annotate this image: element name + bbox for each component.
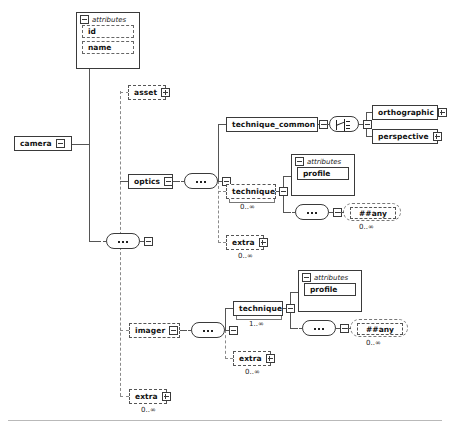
compositor-choice-technique-common[interactable] [329,116,359,132]
compositor-sequence-imager[interactable] [191,322,225,338]
stub-choice [363,120,372,129]
minus-icon[interactable] [302,273,311,282]
attribute-id[interactable]: id [82,25,134,38]
expand-box-icon[interactable] [433,132,442,141]
element-technique-optics[interactable]: technique [226,184,276,199]
connector-branch-imager [120,330,129,331]
attribute-profile-label: profile [303,169,330,178]
connector-imager-trunk-down [225,330,226,359]
attribute-profile[interactable]: profile [304,283,356,296]
wildcard-any-optics-box: ##any [350,207,396,219]
cardinality-extra-optics: 0..∞ [238,252,253,260]
collapse-box-icon[interactable] [279,187,288,196]
element-orthographic[interactable]: orthographic [372,105,438,120]
connector-camera-out [72,144,90,145]
sequence-dots-icon [115,241,133,243]
connector-to-technique-common [218,124,226,125]
expand-box-icon[interactable] [259,238,268,247]
attributes-panel-header: attributes [77,13,139,25]
connector-technique-optics-attrs [283,176,291,177]
sequence-dots-icon [193,181,211,183]
element-perspective[interactable]: perspective [372,129,438,144]
expand-box-icon[interactable] [161,88,170,97]
attributes-label: attributes [307,158,341,166]
compositor-sequence-any-optics[interactable] [295,204,329,220]
wildcard-any-optics[interactable]: ##any [343,203,401,221]
choice-branch-1-icon [346,121,350,122]
sequence-dots-icon [200,330,218,332]
stub-sequence-camera [144,237,153,246]
attributes-label: attributes [314,274,348,282]
element-camera[interactable]: camera [14,136,72,151]
element-orthographic-label: orthographic [377,109,437,117]
attribute-name[interactable]: name [82,41,134,54]
compositor-sequence-any-imager[interactable] [302,320,336,336]
element-imager[interactable]: imager [129,323,180,338]
element-optics-label: optics [133,178,163,186]
connector-technique-optics-sequence [283,212,291,213]
connector-imager-out [180,330,187,331]
connector-to-extra-imager [225,358,233,359]
cardinality-any-imager: 0..∞ [366,339,381,347]
attributes-panel-header: attributes [299,271,361,283]
attributes-panel-technique-imager: attributes profile [298,270,362,312]
attributes-rows: profile [299,283,361,300]
cardinality-any-optics: 0..∞ [359,223,374,231]
choice-branch-2-icon [346,125,350,126]
collapse-box-icon[interactable] [56,139,65,148]
element-extra-camera[interactable]: extra [129,389,167,404]
connector-optics-trunk-up [218,124,219,181]
element-optics[interactable]: optics [128,174,173,189]
cardinality-extra-camera: 0..∞ [141,406,156,414]
element-technique-optics-label: technique [231,188,278,196]
compositor-sequence-camera[interactable] [106,233,140,249]
compositor-sequence-optics[interactable] [184,173,218,189]
element-perspective-label: perspective [377,133,432,141]
attributes-rows: id name [77,25,139,58]
expand-box-icon[interactable] [438,108,447,117]
element-extra-optics[interactable]: extra [226,235,264,250]
element-technique-imager[interactable]: technique [233,301,283,316]
attributes-panel-header: attributes [292,155,354,167]
connector-camera-spine-down [89,144,90,242]
cardinality-technique-optics: 0..∞ [240,203,255,211]
connector-technique-imager-attrs [290,292,298,293]
element-asset-label: asset [133,89,160,97]
element-extra-camera-label: extra [134,393,161,401]
minus-icon[interactable] [80,15,89,24]
attributes-panel-camera: attributes id name [76,12,140,69]
sequence-dots-icon [311,328,329,330]
minus-icon[interactable] [295,157,304,166]
connector-to-technique-optics [218,191,226,192]
element-camera-label: camera [19,140,55,148]
sequence-dots-icon [304,212,322,214]
wildcard-any-imager-label: ##any [366,325,394,334]
element-asset[interactable]: asset [128,85,166,100]
element-extra-imager[interactable]: extra [233,351,271,366]
choice-branch-3-icon [346,128,350,129]
expand-box-icon[interactable] [162,392,171,401]
choice-bar-icon [344,119,345,131]
attribute-profile[interactable]: profile [297,167,349,180]
expand-box-icon[interactable] [266,354,275,363]
element-technique-common-label: technique_common [231,121,318,129]
connector-imager-trunk-up [225,308,226,330]
connector-branch-optics [120,181,128,182]
collapse-box-icon[interactable] [286,304,295,313]
connector-optics-out [173,181,180,182]
attribute-id-label: id [88,27,96,36]
element-technique-common[interactable]: technique_common [226,117,318,132]
attributes-rows: profile [292,167,354,184]
wildcard-any-imager[interactable]: ##any [350,319,408,337]
element-imager-label: imager [134,327,168,335]
wildcard-any-imager-box: ##any [357,323,403,335]
connector-to-extra-optics [218,242,226,243]
element-extra-optics-label: extra [231,239,258,247]
connector-technique-imager-sequence [290,328,298,329]
schema-diagram-canvas: camera attributes id name asset optics [0,0,450,432]
collapse-box-icon[interactable] [169,326,178,335]
element-technique-imager-label: technique [238,305,285,313]
wildcard-any-optics-label: ##any [359,209,387,218]
collapse-box-icon[interactable] [164,177,173,186]
connector-to-sequence-camera [89,241,101,242]
